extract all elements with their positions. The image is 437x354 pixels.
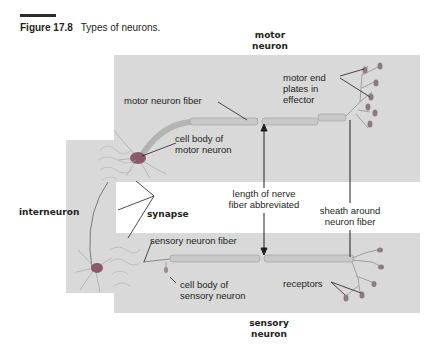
sensory-neuron-fiber: [170, 255, 354, 262]
motor-neuron-fiber-label: motor neuron fiber: [124, 95, 202, 106]
sensory-neuron-fiber-label: sensory neuron fiber: [150, 235, 237, 246]
motor-axon-terminals: [346, 66, 380, 128]
motor-neuron-title: motor neuron: [248, 30, 292, 52]
synapse-tangle-upper: [98, 146, 136, 180]
cell-body-motor-label: cell body of motor neuron: [175, 133, 232, 155]
receptors-label: receptors: [283, 278, 323, 289]
interneuron-cell-body: [91, 263, 103, 273]
sensory-cell-body: [164, 267, 168, 273]
synapse-tangle-lower: [110, 247, 140, 286]
synapse-label: synapse: [147, 209, 189, 220]
cell-body-sensory-label: cell body of sensory neuron: [180, 279, 245, 301]
length-abbreviated-label: length of nerve fiber abbreviated: [224, 188, 304, 210]
sheath-label: sheath around neuron fiber: [315, 205, 385, 227]
interneuron-axon: [90, 182, 108, 268]
motor-neuron-fiber: [140, 114, 346, 158]
motor-end-plates-label: motor end plates in effector: [283, 72, 326, 105]
sensory-neuron-title: sensory neuron: [244, 318, 294, 340]
interneuron-title: interneuron: [19, 207, 79, 218]
motor-end-plates: [363, 63, 383, 128]
